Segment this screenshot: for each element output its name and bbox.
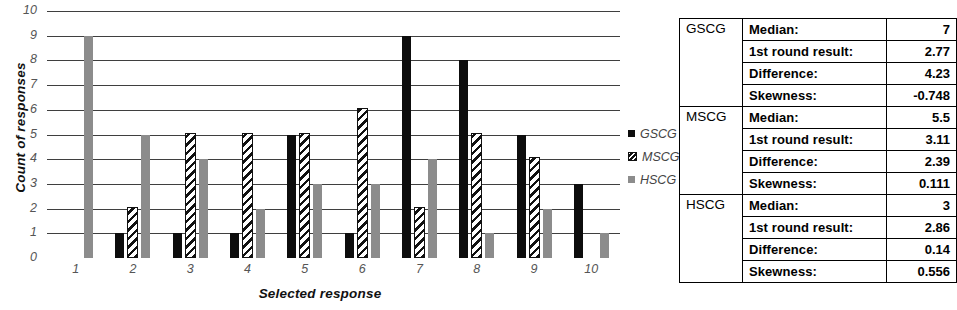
x-axis-title: Selected response: [150, 286, 490, 301]
x-axis-tick: 2: [104, 262, 161, 282]
bar-group: [448, 11, 505, 258]
table-row-value: -0.748: [886, 85, 957, 107]
bar-gscg-10: [574, 184, 583, 258]
bar-gscg-9: [517, 135, 526, 259]
table-row-label: Difference:: [742, 151, 886, 173]
table-row-value: 0.111: [886, 173, 957, 195]
table-row: HSCGMedian:3: [680, 195, 957, 217]
bar-hscg-6: [371, 184, 380, 258]
legend-swatch-icon: [628, 152, 637, 161]
bar-hscg-9: [543, 209, 552, 258]
y-axis-tick: 0: [11, 250, 37, 264]
x-axis-tick: 9: [505, 262, 562, 282]
y-axis-tick: 2: [11, 201, 37, 215]
table-row: MSCGMedian:5.5: [680, 107, 957, 129]
table-row-label: Median:: [742, 19, 886, 41]
y-axis-tick: 5: [11, 127, 37, 141]
bar-group: [162, 11, 219, 258]
x-axis-tick: 10: [563, 262, 620, 282]
bar-hscg-1: [84, 36, 93, 258]
bar-mscg-8: [471, 133, 482, 259]
x-axis-tick-labels: 12345678910: [47, 262, 620, 282]
table-row-label: Difference:: [742, 239, 886, 261]
bar-hscg-7: [428, 159, 437, 258]
bar-hscg-8: [485, 233, 494, 258]
table-row-label: 1st round result:: [742, 41, 886, 63]
table-group-name: MSCG: [680, 107, 743, 195]
legend-swatch-icon: [628, 176, 635, 183]
legend-label: HSCG: [640, 173, 676, 187]
y-axis-tick: 6: [11, 102, 37, 116]
table-group-name: HSCG: [680, 195, 743, 283]
bar-groups: [47, 11, 620, 258]
y-axis-tick: 1: [11, 225, 37, 239]
plot-area: [47, 11, 620, 258]
table-row-value: 7: [886, 19, 957, 41]
y-axis-tick: 9: [11, 28, 37, 42]
table-row-value: 2.39: [886, 151, 957, 173]
table-row: GSCGMedian:7: [680, 19, 957, 41]
stats-table: GSCGMedian:71st round result:2.77Differe…: [679, 18, 957, 283]
legend-label: MSCG: [642, 150, 680, 164]
bar-gscg-7: [402, 36, 411, 258]
bar-group: [505, 11, 562, 258]
y-axis-tick: 4: [11, 151, 37, 165]
bar-hscg-4: [256, 209, 265, 258]
bar-mscg-9: [529, 157, 540, 258]
bar-group: [276, 11, 333, 258]
table-row-label: Skewness:: [742, 85, 886, 107]
x-axis-tick: 4: [219, 262, 276, 282]
y-axis-tick: 3: [11, 176, 37, 190]
table-row-value: 4.23: [886, 63, 957, 85]
table-row-value: 0.14: [886, 239, 957, 261]
x-axis-tick: 7: [391, 262, 448, 282]
x-axis-tick: 1: [47, 262, 104, 282]
bar-gscg-4: [230, 233, 239, 258]
table-row-label: Median:: [742, 195, 886, 217]
table-row-label: Skewness:: [742, 261, 886, 283]
y-axis-tick: 10: [11, 3, 37, 17]
table-group-name: GSCG: [680, 19, 743, 107]
y-axis-tick: 8: [11, 52, 37, 66]
y-axis-tick: 7: [11, 77, 37, 91]
table-row-value: 3.11: [886, 129, 957, 151]
bar-gscg-5: [287, 135, 296, 259]
bar-gscg-8: [459, 60, 468, 258]
bar-mscg-7: [414, 207, 425, 258]
bar-mscg-6: [357, 108, 368, 258]
x-axis-tick: 5: [276, 262, 333, 282]
x-axis-tick: 3: [162, 262, 219, 282]
table-row-value: 0.556: [886, 261, 957, 283]
table-row-label: 1st round result:: [742, 129, 886, 151]
bar-gscg-3: [173, 233, 182, 258]
table-row-label: 1st round result:: [742, 217, 886, 239]
table-row-value: 5.5: [886, 107, 957, 129]
table-row-value: 2.77: [886, 41, 957, 63]
bar-mscg-2: [127, 207, 138, 258]
bar-group: [391, 11, 448, 258]
x-axis-tick: 8: [448, 262, 505, 282]
bar-mscg-5: [299, 133, 310, 259]
bar-hscg-2: [141, 135, 150, 259]
bar-group: [104, 11, 161, 258]
bar-group: [47, 11, 104, 258]
table-row-label: Difference:: [742, 63, 886, 85]
bar-gscg-6: [345, 233, 354, 258]
bar-hscg-10: [600, 233, 609, 258]
table-row-label: Median:: [742, 107, 886, 129]
x-axis-tick: 6: [333, 262, 390, 282]
table-row-label: Skewness:: [742, 173, 886, 195]
bar-group: [219, 11, 276, 258]
bar-mscg-3: [185, 133, 196, 259]
legend-swatch-icon: [628, 130, 635, 137]
bar-group: [333, 11, 390, 258]
y-axis-tick-labels: 109876543210: [11, 11, 37, 258]
bar-hscg-5: [313, 184, 322, 258]
bar-chart: Count of responses 109876543210 12345678…: [0, 0, 680, 310]
legend-label: GSCG: [640, 127, 677, 141]
bar-hscg-3: [199, 159, 208, 258]
table-row-value: 3: [886, 195, 957, 217]
bar-gscg-2: [115, 233, 124, 258]
bar-mscg-4: [242, 133, 253, 259]
table-row-value: 2.86: [886, 217, 957, 239]
